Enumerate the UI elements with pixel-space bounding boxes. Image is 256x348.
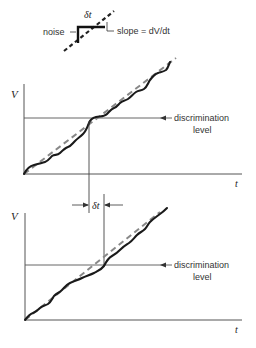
top-x-axis-label: t — [235, 178, 238, 189]
top-level-label-line1: discrimination — [174, 113, 229, 123]
top-level-arrowhead — [160, 116, 166, 121]
right-arrowhead — [104, 203, 110, 208]
bottom-level-label-line2: level — [193, 272, 212, 282]
top-y-axis-label: V — [11, 88, 19, 100]
bottom-level-label-line1: discrimination — [174, 260, 229, 270]
bottom-ideal-dashed-ramp — [25, 212, 160, 320]
inset-noise-label: noise — [43, 27, 65, 37]
inset-slope-label: slope = dV/dt — [117, 26, 170, 36]
top-level-label-line2: level — [193, 125, 212, 135]
bottom-x-axis-label: t — [235, 324, 238, 335]
slope-leader — [107, 22, 114, 31]
top-plot: V t discrimination level — [11, 58, 242, 213]
inset-step — [78, 27, 105, 43]
left-arrowhead — [83, 203, 89, 208]
inset-noise-slope: δt noise slope = dV/dt — [43, 9, 170, 51]
bottom-plot: V t discrimination level — [11, 208, 242, 335]
bottom-level-arrowhead — [160, 263, 166, 268]
bottom-y-axis-label: V — [11, 210, 19, 222]
interval-delta-t-label: δt — [92, 200, 100, 211]
timing-jitter-diagram: δt noise slope = dV/dt V t discriminatio… — [0, 0, 256, 348]
inset-delta-t-label: δt — [84, 9, 92, 20]
